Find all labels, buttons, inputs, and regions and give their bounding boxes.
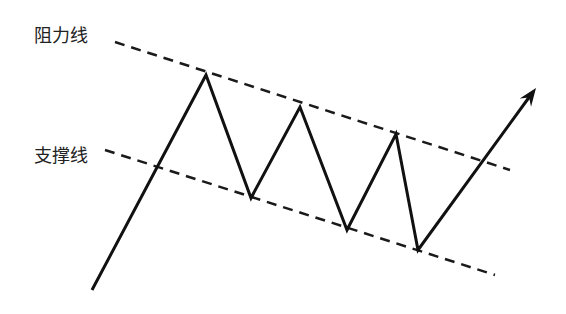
breakout-arrow-icon: [520, 88, 536, 107]
price-path-line: [92, 75, 530, 290]
channel-diagram: [0, 0, 566, 314]
resistance-line: [115, 42, 510, 170]
support-line: [105, 150, 495, 275]
